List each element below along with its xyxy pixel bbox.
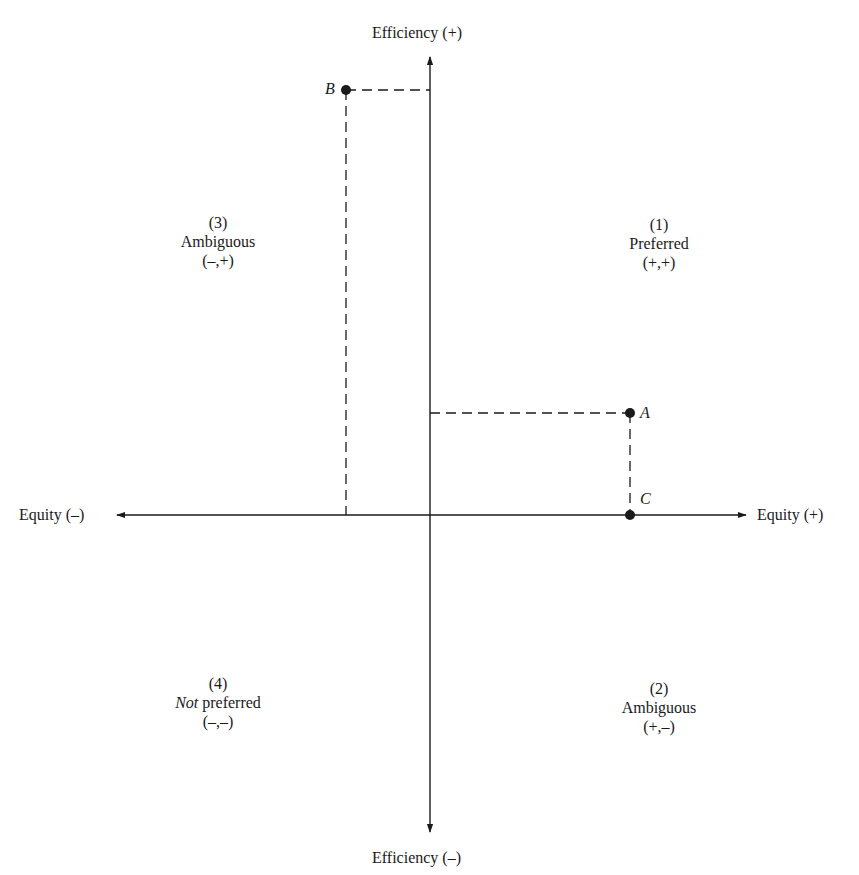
x-axis-right-label: Equity (+)	[757, 505, 823, 524]
quadrant-2-name: Ambiguous	[579, 698, 739, 717]
y-axis-top-label: Efficiency (+)	[372, 23, 462, 42]
quadrant-3-signs: (–,+)	[138, 251, 298, 270]
quadrant-3-name: Ambiguous	[138, 232, 298, 251]
quadrant-diagram	[0, 0, 859, 875]
quadrant-4-signs: (–,–)	[138, 712, 298, 731]
quadrant-4-name: Not preferred	[138, 693, 298, 712]
point-a-marker	[625, 408, 635, 418]
quadrant-4: (4) Not preferred (–,–)	[138, 674, 298, 731]
quadrant-1-number: (1)	[579, 215, 739, 234]
x-axis-left-label: Equity (–)	[19, 505, 84, 524]
point-b-label: B	[325, 80, 335, 98]
point-c-label: C	[640, 490, 651, 508]
quadrant-3-number: (3)	[138, 213, 298, 232]
quadrant-2-number: (2)	[579, 679, 739, 698]
quadrant-1-name: Preferred	[579, 234, 739, 253]
quadrant-2-signs: (+,–)	[579, 717, 739, 736]
quadrant-2: (2) Ambiguous (+,–)	[579, 679, 739, 736]
quadrant-4-name-italic: Not	[175, 694, 198, 711]
y-axis-bottom-label: Efficiency (–)	[372, 848, 461, 867]
quadrant-1: (1) Preferred (+,+)	[579, 215, 739, 272]
point-a-label: A	[640, 404, 650, 422]
quadrant-4-name-rest: preferred	[198, 694, 261, 711]
quadrant-4-number: (4)	[138, 674, 298, 693]
quadrant-1-signs: (+,+)	[579, 253, 739, 272]
quadrant-3: (3) Ambiguous (–,+)	[138, 213, 298, 270]
point-c-marker	[625, 510, 635, 520]
point-b-marker	[341, 85, 351, 95]
